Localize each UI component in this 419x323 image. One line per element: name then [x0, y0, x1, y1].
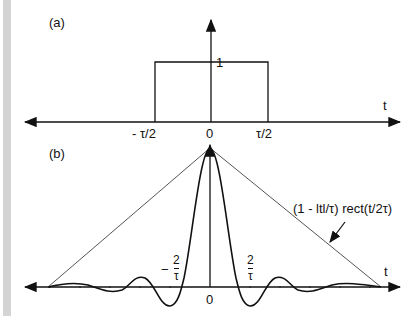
panel-b-label: (b) [49, 146, 65, 161]
tick-zero-a: 0 [206, 126, 213, 141]
panel-a-axes [25, 20, 400, 122]
height-label: 1 [216, 55, 223, 70]
t-axis-label-b: t [384, 264, 388, 279]
tick-half-tau: τ/2 [256, 126, 272, 141]
pos-frac-den: τ [248, 268, 253, 283]
t-axis-label-a: t [383, 98, 387, 113]
sinc-squared-curve [48, 148, 381, 306]
envelope-label: (1 - ltl/τ) rect(t/2τ) [293, 201, 392, 216]
envelope-pointer [330, 222, 345, 242]
neg-frac-den: τ [174, 268, 179, 283]
diagram-canvas [0, 0, 419, 323]
neg-frac-num: 2 [173, 253, 180, 267]
panel-a-label: (a) [49, 15, 65, 30]
tick-zero-b: 0 [206, 292, 213, 307]
triangle-envelope [48, 148, 381, 287]
tick-neg-half-tau: - τ/2 [132, 126, 156, 141]
neg-two-over-tau-sign: − [161, 262, 169, 277]
pos-frac-num: 2 [247, 253, 254, 267]
panel-b-axes [25, 145, 400, 287]
